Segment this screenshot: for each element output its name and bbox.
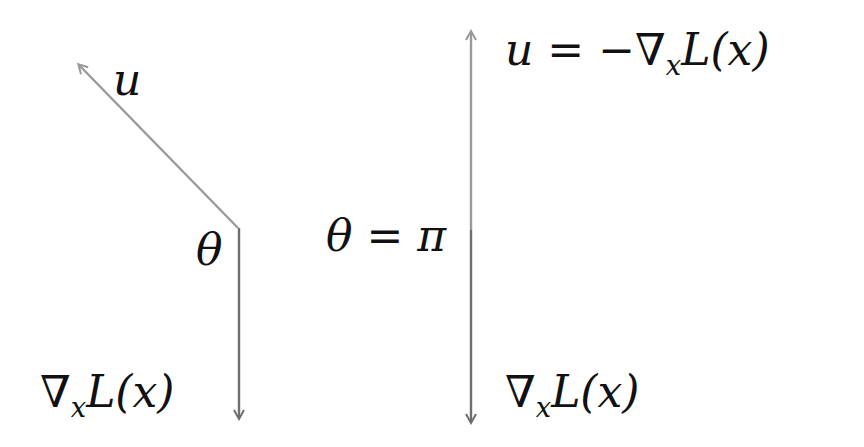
loss-function: L(x): [86, 366, 174, 417]
loss-function: L(x): [551, 366, 639, 417]
u-symbol: u: [505, 24, 533, 75]
nabla-icon: ∇: [635, 24, 666, 75]
gradient-label-left: ∇xL(x): [40, 370, 175, 421]
subscript-x: x: [666, 50, 681, 81]
u-symbol: u: [113, 54, 141, 105]
diagram-canvas: u θ ∇xL(x) u = −∇xL(x) θ = π ∇xL(x): [0, 0, 864, 447]
theta-pi-expression: θ = π: [326, 210, 446, 261]
nabla-icon: ∇: [505, 366, 536, 417]
loss-function: L(x): [681, 24, 769, 75]
equals-minus: = −: [533, 24, 635, 75]
theta-equals-pi-label: θ = π: [326, 214, 446, 258]
nabla-icon: ∇: [40, 366, 71, 417]
vector-u-arrow: [79, 65, 238, 228]
theta-symbol: θ: [196, 224, 223, 275]
u-equals-negative-gradient-label: u = −∇xL(x): [505, 28, 770, 79]
subscript-x: x: [71, 392, 86, 423]
vector-u-label: u: [113, 58, 141, 102]
subscript-x: x: [536, 392, 551, 423]
gradient-label-right: ∇xL(x): [505, 370, 640, 421]
angle-theta-label: θ: [196, 228, 223, 272]
